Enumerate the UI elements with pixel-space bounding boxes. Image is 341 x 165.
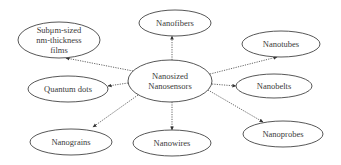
node-nanograins-label: Nanograins [51, 137, 90, 147]
node-subum-films: Subμm-sizednm-thicknessfilms [18, 22, 100, 58]
node-nanoprobes-label: Nanoprobes [262, 129, 303, 139]
nodes: NanosizedNanosensorsNanofibersNanotubesN… [18, 10, 323, 156]
node-nanowires: Nanowires [133, 130, 211, 156]
node-subum-films-label: nm-thickness [36, 35, 81, 45]
center-node: NanosizedNanosensors [128, 60, 212, 102]
node-nanoprobes: Nanoprobes [243, 121, 323, 147]
edge-nanobelts [212, 84, 236, 86]
diagram-canvas: NanosizedNanosensorsNanofibersNanotubesN… [0, 0, 341, 165]
node-nanotubes: Nanotubes [242, 31, 320, 57]
node-nanofibers-label: Nanofibers [156, 18, 194, 28]
edge-quantum-dots [108, 83, 128, 86]
center-node-label: Nanosensors [148, 81, 191, 91]
node-nanotubes-label: Nanotubes [263, 39, 299, 49]
edge-subum-films [66, 58, 133, 71]
node-subum-films-label: films [50, 45, 67, 55]
edge-nanotubes [210, 57, 277, 74]
node-nanobelts: Nanobelts [236, 74, 312, 98]
node-subum-films-label: Subμm-sized [37, 25, 82, 35]
nanosensor-diagram: NanosizedNanosensorsNanofibersNanotubesN… [0, 0, 341, 165]
node-quantum-dots-label: Quantum dots [44, 84, 92, 94]
edge-nanograins [93, 95, 138, 127]
node-nanofibers: Nanofibers [139, 10, 211, 36]
node-nanowires-label: Nanowires [154, 138, 191, 148]
node-quantum-dots: Quantum dots [28, 76, 108, 102]
node-nanobelts-label: Nanobelts [257, 81, 291, 91]
center-node-label: Nanosized [152, 71, 189, 81]
node-nanograins: Nanograins [30, 129, 112, 155]
